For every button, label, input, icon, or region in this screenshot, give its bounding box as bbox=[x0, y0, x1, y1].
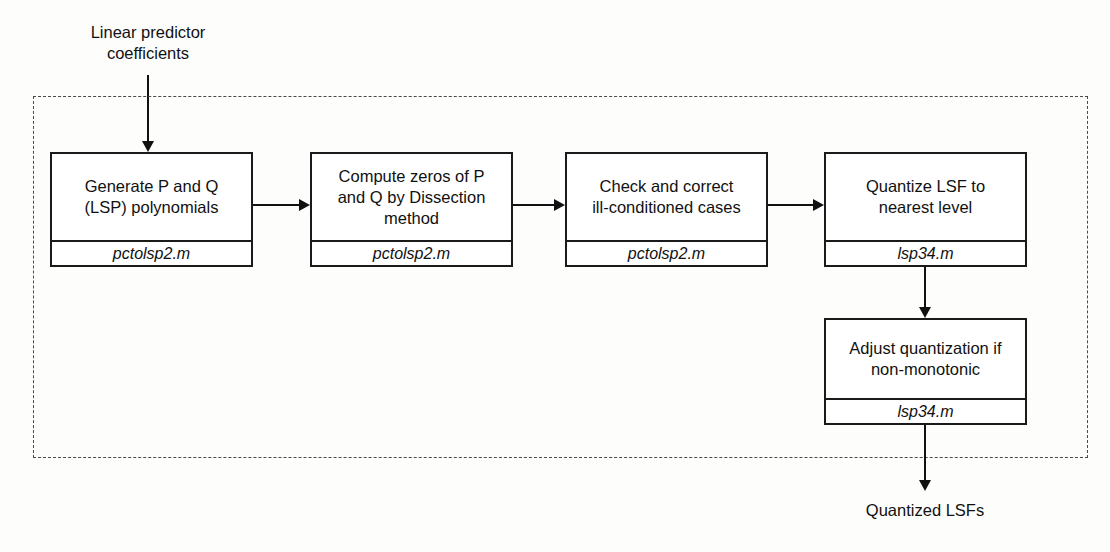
arrowhead-node2-to-node3 bbox=[554, 199, 565, 211]
node-file: pctolsp2.m bbox=[52, 240, 251, 265]
connector-node1-to-node2 bbox=[253, 204, 299, 206]
arrowhead-node1-to-node2 bbox=[299, 199, 310, 211]
node-title: Quantize LSF to nearest level bbox=[826, 154, 1025, 240]
node-file: lsp34.m bbox=[826, 240, 1025, 265]
node-file: pctolsp2.m bbox=[567, 240, 766, 265]
node-adjust-quantization[interactable]: Adjust quantization if non-monotonic lsp… bbox=[824, 318, 1027, 425]
input-label: Linear predictor coefficients bbox=[48, 22, 248, 64]
node-title: Adjust quantization if non-monotonic bbox=[826, 320, 1025, 398]
node-compute-zeros[interactable]: Compute zeros of P and Q by Dissection m… bbox=[310, 152, 513, 267]
connector-node2-to-node3 bbox=[513, 204, 554, 206]
node-generate-p-q[interactable]: Generate P and Q (LSP) polynomials pctol… bbox=[50, 152, 253, 267]
node-title: Check and correct ill-conditioned cases bbox=[567, 154, 766, 240]
flowchart-canvas: Linear predictor coefficients Generate P… bbox=[0, 0, 1110, 552]
node-check-correct[interactable]: Check and correct ill-conditioned cases … bbox=[565, 152, 768, 267]
node-title: Generate P and Q (LSP) polynomials bbox=[52, 154, 251, 240]
arrowhead-node3-to-node4 bbox=[813, 199, 824, 211]
node-quantize-lsf[interactable]: Quantize LSF to nearest level lsp34.m bbox=[824, 152, 1027, 267]
node-title: Compute zeros of P and Q by Dissection m… bbox=[312, 154, 511, 240]
node-file: lsp34.m bbox=[826, 398, 1025, 423]
arrowhead-node4-to-node5 bbox=[919, 307, 931, 318]
connector-node5-to-output bbox=[924, 425, 926, 480]
connector-node4-to-node5 bbox=[924, 267, 926, 307]
node-file: pctolsp2.m bbox=[312, 240, 511, 265]
arrowhead-node5-to-output bbox=[919, 480, 931, 491]
output-label: Quantized LSFs bbox=[825, 500, 1025, 521]
connector-node3-to-node4 bbox=[768, 204, 813, 206]
